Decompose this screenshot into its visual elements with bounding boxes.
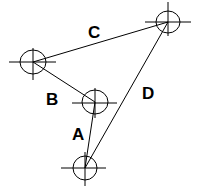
diagram-canvas: C B D A (0, 0, 200, 186)
edge-label-d: D (142, 85, 154, 102)
edge-a (85, 102, 95, 168)
edge-d (85, 22, 168, 168)
edge-label-b: B (46, 91, 58, 108)
edge-label-c: C (88, 24, 100, 41)
node-left-crosshair-icon (9, 48, 56, 80)
node-bottom-crosshair-icon (61, 152, 106, 186)
edge-b (33, 62, 95, 102)
edge-c (33, 22, 168, 62)
node-top-right-crosshair-icon (145, 2, 191, 36)
node-middle-crosshair-icon (72, 88, 117, 118)
edge-label-a: A (72, 126, 84, 143)
